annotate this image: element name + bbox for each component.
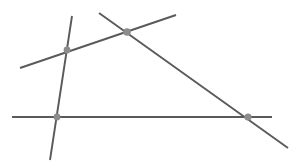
diagram-canvas-container [0,0,301,166]
point-lower-right [244,113,251,120]
line-intersection-figure [0,0,301,166]
diagram-background [0,0,301,166]
point-upper-left [64,47,71,54]
point-lower-left [54,114,61,121]
point-apex [123,28,131,36]
